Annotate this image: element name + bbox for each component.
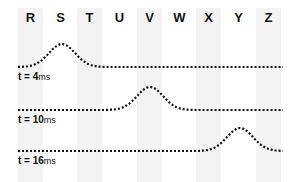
time-value: t = 16 [18,155,44,166]
wave-packet-row-2 [18,87,283,110]
wave-packet-row-3 [18,128,283,151]
time-value: t = 4 [18,71,38,82]
time-label: t = 4ms [18,71,50,82]
time-unit: ms [44,115,56,125]
time-unit: ms [44,156,56,166]
time-unit: ms [38,72,50,82]
wave-packet-row-1 [18,44,283,67]
time-label: t = 10ms [18,114,56,125]
time-label: t = 16ms [18,155,56,166]
time-value: t = 10 [18,114,44,125]
